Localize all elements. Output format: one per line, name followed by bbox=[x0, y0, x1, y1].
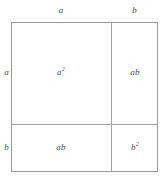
binomial-square-figure: a b a b a2 ab ab b2 bbox=[0, 0, 164, 181]
cell-label-b-squared-exponent: 2 bbox=[136, 141, 139, 147]
cell-label-b-squared: b2 bbox=[112, 143, 158, 152]
cell-label-a-squared-exponent: 2 bbox=[62, 66, 65, 72]
cell-label-ab-top-right: ab bbox=[112, 68, 158, 77]
left-edge-label-a: a bbox=[2, 68, 11, 77]
cell-label-ab-bottom-left-base: ab bbox=[56, 142, 65, 152]
cell-label-ab-bottom-left: ab bbox=[11, 143, 111, 152]
top-edge-label-b: b bbox=[111, 6, 158, 15]
cell-label-ab-top-right-base: ab bbox=[130, 67, 139, 77]
top-edge-label-a: a bbox=[0, 6, 122, 15]
cell-label-a-squared: a2 bbox=[11, 68, 111, 77]
left-edge-label-b: b bbox=[2, 143, 11, 152]
horizontal-divider-line bbox=[11, 124, 158, 125]
